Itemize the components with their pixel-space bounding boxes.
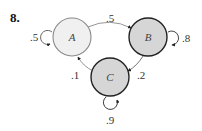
state-a: A bbox=[53, 18, 91, 56]
label-c-to-c: .9 bbox=[106, 114, 115, 126]
label-b-to-c: .2 bbox=[137, 69, 145, 81]
state-diagram: A B C .5 .5 .8 .2 .9 .1 bbox=[0, 0, 202, 131]
state-c: C bbox=[91, 58, 129, 96]
state-b: B bbox=[129, 18, 167, 56]
edge-c-to-a bbox=[78, 57, 93, 71]
state-a-label: A bbox=[68, 31, 76, 43]
label-a-to-b: .5 bbox=[106, 12, 115, 24]
self-loop-b bbox=[168, 31, 179, 45]
state-b-label: B bbox=[145, 31, 152, 43]
label-b-to-b: .8 bbox=[182, 32, 191, 44]
self-loop-c bbox=[103, 97, 117, 109]
state-c-label: C bbox=[106, 71, 114, 83]
label-a-to-a: .5 bbox=[30, 31, 39, 43]
self-loop-a bbox=[41, 30, 52, 44]
label-c-to-a: .1 bbox=[71, 69, 79, 81]
